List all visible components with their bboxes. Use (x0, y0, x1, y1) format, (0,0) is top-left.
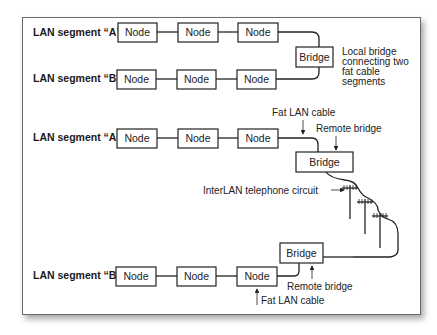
lan-bridge-diagram: LAN segment “A” LAN segment “B” Node Nod… (0, 0, 437, 335)
telephone-pole-icon (342, 185, 358, 219)
svg-text:Bridge: Bridge (299, 51, 330, 63)
svg-text:Node: Node (244, 270, 269, 282)
remote-a-node-2: Node (178, 129, 218, 148)
local-b-node-3: Node (237, 70, 276, 89)
remote-b-node-1: Node (116, 267, 156, 286)
local-segment-b-label: LAN segment “B” (33, 72, 122, 84)
telephone-circuit-line (326, 172, 398, 257)
local-segment-a-label: LAN segment “A” (33, 26, 122, 38)
remote-bridge-b: Bridge (280, 243, 323, 263)
remote-segment-b-label: LAN segment “B” (33, 269, 122, 281)
fat-lan-cable-top-label: Fat LAN cable (272, 107, 336, 118)
remote-a-node-1: Node (117, 129, 157, 148)
svg-text:Bridge: Bridge (286, 247, 317, 259)
telephone-pole-icon (357, 199, 373, 234)
svg-text:Node: Node (244, 73, 269, 85)
remote-b-node-3: Node (237, 267, 277, 286)
local-bridge: Bridge (296, 47, 333, 67)
local-b-node-1: Node (117, 70, 156, 89)
svg-text:Node: Node (124, 73, 149, 85)
svg-text:Bridge: Bridge (309, 156, 340, 168)
svg-text:Node: Node (185, 26, 210, 38)
remote-a-node-3: Node (238, 129, 278, 148)
local-b-node-2: Node (177, 70, 216, 89)
remote-bridge-a: Bridge (296, 152, 353, 172)
svg-text:Node: Node (124, 132, 149, 144)
remote-bridge-top-label: Remote bridge (316, 123, 382, 134)
svg-text:Node: Node (245, 132, 270, 144)
svg-text:Node: Node (125, 26, 150, 38)
remote-segment-a-label: LAN segment “A” (33, 131, 122, 143)
remote-b-node-2: Node (177, 267, 216, 286)
remote-bridge-bottom-label: Remote bridge (287, 281, 353, 292)
interlan-circuit-label: InterLAN telephone circuit (203, 185, 318, 196)
svg-text:Node: Node (184, 270, 209, 282)
svg-text:Node: Node (184, 73, 209, 85)
svg-text:Node: Node (123, 270, 148, 282)
local-a-node-2: Node (178, 23, 218, 42)
svg-text:Node: Node (245, 26, 270, 38)
local-bridge-annotation: Local bridge connecting two fat cable se… (342, 46, 412, 87)
fat-lan-cable-bottom-label: Fat LAN cable (261, 295, 325, 306)
svg-text:Node: Node (185, 132, 210, 144)
local-a-node-1: Node (118, 23, 157, 42)
local-a-node-3: Node (238, 23, 278, 42)
